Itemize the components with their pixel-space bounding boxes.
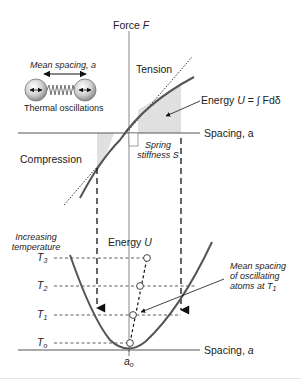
temperature-label-t2: T2 [37, 280, 47, 293]
spring-stiffness-label: Spring stiffness S [136, 141, 180, 161]
bottom-divider [0, 378, 301, 379]
temperature-label-t0: To [37, 337, 47, 350]
thermal-oscillations-caption: Thermal oscillations [24, 104, 104, 114]
mean-spacing-annotation: Mean spacing of oscillating atoms at T1 [230, 262, 286, 292]
diagram-canvas: Force F Tension Compression Spacing, a S… [0, 0, 301, 384]
diagram-graphics [0, 0, 301, 384]
annotation-arrow [141, 279, 224, 312]
increasing-temperature-label: Increasing temperature [8, 233, 64, 253]
temperature-label-t3: T3 [37, 252, 47, 265]
mean-spacing-label: Mean spacing, a [30, 61, 96, 71]
mean-spacing-points [127, 255, 151, 347]
spacing-axis-lower-label: Spacing, a [204, 345, 254, 357]
atoms-inset [25, 74, 96, 101]
energy-axis-label: Energy U [108, 237, 152, 249]
a0-label: ao [124, 356, 134, 369]
spacing-axis-upper-label: Spacing, a [204, 128, 254, 140]
tension-label: Tension [136, 64, 172, 76]
force-axis-label: Force F [113, 20, 149, 32]
mean-spacing-locus [130, 258, 147, 343]
energy-integral-label: Energy U = ∫ Fdδ [201, 95, 281, 107]
temperature-label-t1: T1 [37, 309, 47, 322]
energy-well-curve [70, 242, 212, 349]
spring-icon [47, 85, 74, 95]
compression-label: Compression [20, 154, 82, 166]
